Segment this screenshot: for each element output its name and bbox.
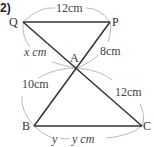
point-C-label: C — [143, 119, 151, 133]
measure-AC: 12cm — [115, 85, 142, 99]
measure-BC-prefix: y — [51, 132, 58, 146]
arc-QP-right — [86, 8, 110, 22]
segment-QC — [23, 22, 142, 126]
measure-BC: y cm — [71, 132, 95, 146]
arc-AP — [77, 55, 98, 68]
point-Q-label: Q — [9, 15, 18, 29]
arc-BC-right — [106, 126, 142, 138]
problem-label: 2) — [0, 1, 11, 15]
measure-BA: 10cm — [22, 77, 49, 91]
point-P-label: P — [112, 15, 119, 29]
measure-QA: x cm — [23, 45, 47, 59]
arc-BC-mid — [60, 138, 70, 139]
measure-AP: 8cm — [100, 44, 121, 58]
point-A-label: A — [70, 51, 79, 65]
diagram-canvas: 2) Q P A B C 12cm x cm 8cm 10cm 12cm y y… — [0, 0, 154, 147]
arc-BC-left — [34, 126, 52, 138]
arc-QP — [23, 8, 55, 22]
measure-QP: 12cm — [56, 1, 83, 15]
point-B-label: B — [22, 119, 30, 133]
